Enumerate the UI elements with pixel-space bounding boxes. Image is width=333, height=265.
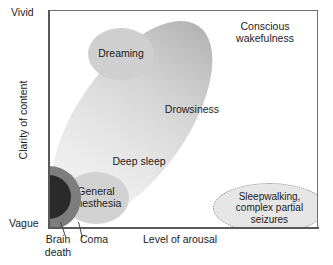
y-axis-line xyxy=(48,10,50,229)
callout-label-coma: Coma xyxy=(80,233,108,245)
region-label-drowsiness: Drowsiness xyxy=(147,103,237,115)
y-axis-label-vivid: Vivid xyxy=(11,6,34,18)
sleepwalking-line3: seizures xyxy=(251,214,288,225)
plot-area: Conscious wakefulness Drowsiness Deep sl… xyxy=(48,10,318,228)
region-label-dreaming: Dreaming xyxy=(98,48,144,60)
region-label-conscious-wakefulness: Conscious wakefulness xyxy=(217,20,313,44)
x-axis-line xyxy=(48,227,319,229)
region-label-sleepwalking: Sleepwalking, complex partial seizures xyxy=(236,191,303,225)
y-axis-label-vague: Vague xyxy=(9,217,39,229)
region-sleepwalking: Sleepwalking, complex partial seizures xyxy=(213,183,318,228)
region-label-deep-sleep: Deep sleep xyxy=(99,155,179,167)
brain-death-line1: Brain xyxy=(46,233,71,245)
brain-death-line2: death xyxy=(45,246,71,258)
x-axis-title: Level of arousal xyxy=(143,233,217,245)
callout-label-brain-death: Brain death xyxy=(37,233,79,258)
conscious-wakefulness-line1: Conscious xyxy=(217,20,313,32)
region-dreaming: Dreaming xyxy=(88,28,154,80)
general-anesthesia-line1: General xyxy=(77,185,114,197)
conscious-wakefulness-line2: wakefulness xyxy=(217,32,313,44)
consciousness-state-chart: Clarity of content Vivid Vague Conscious… xyxy=(0,0,333,265)
sleepwalking-line2: complex partial xyxy=(236,202,303,213)
y-axis-title: Clarity of content xyxy=(17,50,29,190)
sleepwalking-line1: Sleepwalking, xyxy=(239,191,301,202)
